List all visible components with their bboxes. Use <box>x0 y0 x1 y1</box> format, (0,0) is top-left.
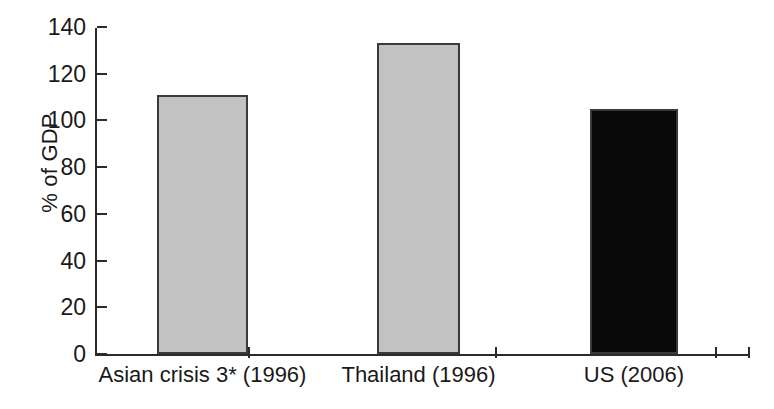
bar <box>157 95 248 354</box>
y-axis-tick-label: 100 <box>32 109 86 132</box>
y-axis-tick-mark <box>97 26 107 28</box>
bar <box>377 43 460 354</box>
x-axis-tick-mark <box>715 347 717 358</box>
x-axis-category-label: Thailand (1996) <box>341 362 495 388</box>
x-axis-category-label: Asian crisis 3* (1996) <box>99 362 307 388</box>
x-axis-line <box>95 354 748 356</box>
y-axis-tick-mark <box>97 260 107 262</box>
y-axis-tick-mark <box>97 213 107 215</box>
plot-area <box>95 20 750 360</box>
x-axis-tick-mark <box>248 347 250 358</box>
bar <box>590 109 678 354</box>
y-axis-tick-mark <box>97 119 107 121</box>
y-axis-tick-label: 120 <box>32 62 86 85</box>
y-axis-tick-label: 0 <box>32 343 86 366</box>
y-axis-tick-label: 20 <box>32 296 86 319</box>
x-axis-tick-mark <box>495 347 497 358</box>
y-axis-tick-mark <box>97 306 107 308</box>
y-axis-tick-labels: 140120100806040200 <box>30 0 86 409</box>
bar-chart: % of GDP 140120100806040200 Asian crisis… <box>0 0 774 409</box>
x-axis-category-labels: Asian crisis 3* (1996)Thailand (1996)US … <box>95 362 750 402</box>
x-axis-tick-mark <box>748 347 750 358</box>
y-axis-tick-mark <box>97 73 107 75</box>
y-axis-tick-label: 60 <box>32 202 86 225</box>
y-axis-tick-label: 40 <box>32 249 86 272</box>
y-axis-tick-label: 80 <box>32 156 86 179</box>
y-axis-tick-mark <box>97 166 107 168</box>
y-axis-tick-mark <box>97 353 107 355</box>
y-axis-tick-label: 140 <box>32 16 86 39</box>
x-axis-category-label: US (2006) <box>584 362 684 388</box>
